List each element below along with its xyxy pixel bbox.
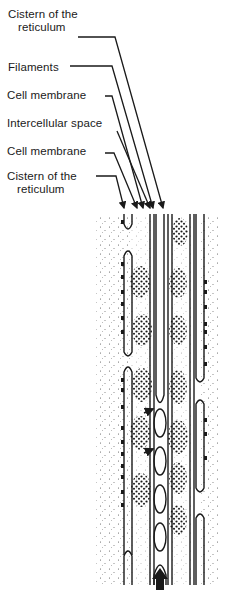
leader-cistern-bottom [96, 176, 124, 208]
leader-cell-membrane-2 [105, 153, 137, 208]
intercellular-tube [156, 214, 164, 403]
leader-cistern-top [78, 37, 163, 208]
diagram-canvas [0, 0, 234, 600]
leader-lines [70, 37, 163, 208]
ellipse-chain [154, 409, 166, 585]
